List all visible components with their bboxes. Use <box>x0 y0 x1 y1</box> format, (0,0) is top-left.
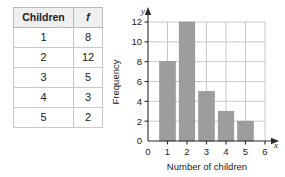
chart-canvas: 0123456024681012 Number of children Freq… <box>108 0 285 177</box>
cell-frequency: 2 <box>74 108 103 128</box>
y-axis-title: Frequency <box>110 59 121 104</box>
bar-chart: 0123456024681012 Number of children Freq… <box>108 0 285 177</box>
x-tick-label-3: 3 <box>204 146 209 157</box>
cell-children: 5 <box>14 108 74 128</box>
y-tick-label-6: 6 <box>137 76 142 87</box>
x-tick-label-0: 0 <box>145 146 150 157</box>
table-row: 1 8 <box>14 28 103 48</box>
y-tick-label-12: 12 <box>131 16 142 27</box>
table-row: 3 5 <box>14 68 103 88</box>
column-header-children: Children <box>14 8 74 28</box>
x-tick-label-6: 6 <box>262 146 267 157</box>
x-tick-label-1: 1 <box>165 146 170 157</box>
y-tick-label-4: 4 <box>137 96 142 107</box>
cell-children: 1 <box>14 28 74 48</box>
y-tick-label-0: 0 <box>137 135 142 146</box>
cell-children: 2 <box>14 48 74 68</box>
y-tick-label-2: 2 <box>137 116 142 127</box>
cell-frequency: 12 <box>74 48 103 68</box>
cell-children: 3 <box>14 68 74 88</box>
y-axis-symbol: y <box>140 6 145 16</box>
y-tick-label-8: 8 <box>137 56 142 67</box>
bar-4 <box>218 111 234 141</box>
x-axis-title: Number of children <box>167 161 247 172</box>
cell-children: 4 <box>14 88 74 108</box>
frequency-table: Children f 1 8 2 12 3 5 4 3 5 2 <box>13 7 103 128</box>
bar-2 <box>179 22 195 141</box>
y-tick-label-10: 10 <box>131 36 142 47</box>
cell-frequency: 3 <box>74 88 103 108</box>
cell-frequency: 8 <box>74 28 103 48</box>
x-tick-label-4: 4 <box>223 146 228 157</box>
bar-3 <box>199 91 215 141</box>
table-row: 2 12 <box>14 48 103 68</box>
y-axis-arrow-icon <box>145 7 151 15</box>
x-axis-symbol: x <box>273 140 278 150</box>
table-row: 4 3 <box>14 88 103 108</box>
table-header-row: Children f <box>14 8 103 28</box>
cell-frequency: 5 <box>74 68 103 88</box>
x-tick-label-5: 5 <box>243 146 248 157</box>
table-row: 5 2 <box>14 108 103 128</box>
bar-1 <box>160 62 176 141</box>
x-tick-label-2: 2 <box>184 146 189 157</box>
bar-5 <box>238 121 254 141</box>
column-header-frequency: f <box>74 8 103 28</box>
